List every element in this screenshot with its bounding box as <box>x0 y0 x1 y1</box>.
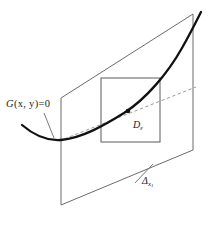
implicit-curve <box>22 12 201 140</box>
figure-container: G(x, y)=0 Dε Δx1 <box>0 0 223 231</box>
curve-equation-label: G(x, y)=0 <box>6 99 50 110</box>
plane-label: Δx1 <box>142 176 153 189</box>
plane-label-subscript: x1 <box>148 180 153 187</box>
curve-equation-rhs: =0 <box>38 98 50 109</box>
domain-label-subscript: ε <box>140 124 143 131</box>
geometry-diagram-svg <box>0 0 223 231</box>
curve-point-marker <box>126 109 131 114</box>
curve-equation-arguments: (x, y) <box>14 98 39 109</box>
domain-label: Dε <box>133 120 143 132</box>
domain-square <box>101 78 160 142</box>
curve-label-leader-line <box>44 113 54 138</box>
plane-label-subsubscript: 1 <box>151 183 153 188</box>
dashed-tangent-line <box>59 87 196 141</box>
curve-equation-function: G <box>6 98 14 109</box>
